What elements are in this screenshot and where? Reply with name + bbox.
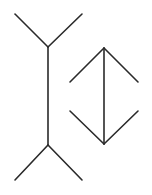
figure-fins-in [70,48,138,144]
bottom-left-fin [15,145,48,180]
top-left-arrowhead [70,48,104,82]
bottom-right-fin [48,145,82,180]
bottom-right-arrowhead [104,111,138,144]
bottom-left-arrowhead [70,111,104,144]
top-left-fin [15,14,48,47]
top-right-arrowhead [104,48,138,82]
muller-lyer-diagram [0,0,152,195]
top-right-fin [48,14,82,47]
figure-fins-out [15,14,82,180]
